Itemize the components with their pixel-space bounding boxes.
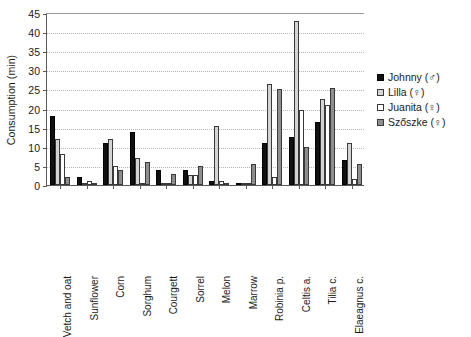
bar-group [103,14,123,185]
x-axis-tick-mark [299,185,300,189]
x-axis-tick-mark [193,185,194,189]
y-axis-tick-label: 10 [28,143,40,153]
y-axis-tick-mark [43,167,47,168]
x-axis-tick-label: Vetch and oat [46,190,73,286]
y-axis-tick-labels: 051015202530354045 [22,14,42,186]
y-axis-title-label: Consumption (min) [5,55,17,145]
y-axis-tick-mark [43,110,47,111]
y-axis-tick-label: 35 [28,47,40,57]
bar [224,183,229,185]
x-axis-tick-mark [113,185,114,189]
bar [267,84,272,185]
y-axis-tick-label: 40 [28,28,40,38]
legend-item: Juanita (♀) [377,100,471,114]
y-axis-tick-mark [43,148,47,149]
bar [214,126,219,185]
x-axis-tick-label: Sorghum [126,190,153,286]
bar [118,170,123,185]
x-axis-tick-mark [352,185,353,189]
y-axis-tick-label: 15 [28,124,40,134]
x-axis-tick-mark [60,185,61,189]
bar-group [236,14,256,185]
x-axis-tick-label: Celtis a. [285,190,312,286]
bar-group [50,14,70,185]
bar-group [342,14,362,185]
y-axis-tick-mark [43,33,47,34]
bar-group [209,14,229,185]
bar [330,88,335,185]
y-axis-tick-label: 0 [34,181,40,191]
white-square-icon [377,104,384,111]
bar [251,164,256,185]
y-axis-tick-mark [43,52,47,53]
bar [65,177,70,185]
light-gray-square-icon [377,89,384,96]
y-axis-tick-mark [43,90,47,91]
bar [135,158,140,185]
legend-item-label: Johnny (♂) [388,72,440,83]
bar [171,174,176,185]
x-axis-tick-labels: Vetch and oatSunflowerCornSorghumCourget… [46,190,364,288]
bar-group [156,14,176,185]
x-axis-tick-label: Elaeagnus c. [338,190,365,286]
bar-group [77,14,97,185]
x-axis-tick-mark [166,185,167,189]
gray-square-icon [377,119,384,126]
legend-item: Johnny (♂) [377,70,471,84]
y-axis-tick-label: 45 [28,9,40,19]
x-axis-tick-label: Marrow [232,190,259,286]
y-axis-tick-label: 30 [28,66,40,76]
bar-group [183,14,203,185]
x-axis-tick-mark [140,185,141,189]
y-axis-tick-label: 20 [28,105,40,115]
bar-group [315,14,335,185]
x-axis-tick-label: Robinia p. [258,190,285,286]
bar [357,164,362,185]
plot-area [46,14,364,186]
x-axis-tick-mark [219,185,220,189]
bar-group [289,14,309,185]
y-axis-tick-mark [43,129,47,130]
x-axis-tick-label: Courgett [152,190,179,286]
legend-item: Szőszke (♀) [377,115,471,129]
y-axis-tick-label: 5 [34,162,40,172]
x-axis-tick-label: Sorrel [179,190,206,286]
bar [304,147,309,185]
y-axis-tick-label: 25 [28,85,40,95]
y-axis-tick-mark [43,186,47,187]
x-axis-tick-label-text: Elaeagnus c. [355,276,365,334]
x-axis-tick-mark [246,185,247,189]
bar [198,166,203,185]
x-axis-tick-mark [325,185,326,189]
bar [92,183,97,185]
y-axis-tick-mark [43,71,47,72]
x-axis-tick-mark [87,185,88,189]
x-axis-tick-mark [272,185,273,189]
x-axis-tick-label: Melon [205,190,232,286]
bar [277,89,282,185]
chart-legend: Johnny (♂)Lilla (♀)Juanita (♀)Szőszke (♀… [377,70,471,130]
legend-item-label: Szőszke (♀) [388,117,445,128]
legend-item: Lilla (♀) [377,85,471,99]
x-axis-tick-label: Tilia c. [311,190,338,286]
y-axis-tick-mark [43,14,47,15]
y-axis-title: Consumption (min) [0,0,22,200]
x-axis-tick-label: Sunflower [73,190,100,286]
legend-item-label: Juanita (♀) [388,102,440,113]
black-square-icon [377,74,384,81]
bar-group [262,14,282,185]
x-axis-tick-label: Corn [99,190,126,286]
bar-group [130,14,150,185]
legend-item-label: Lilla (♀) [388,87,424,98]
bar [145,162,150,185]
